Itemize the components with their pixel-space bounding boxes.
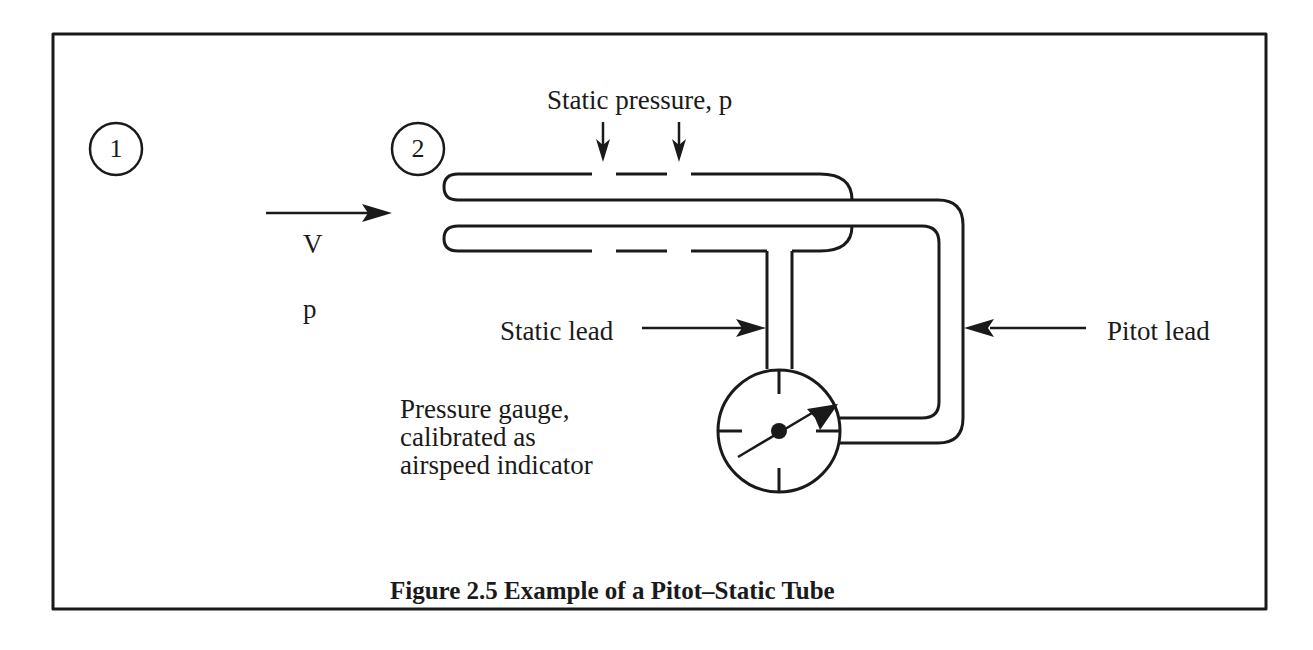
gauge-needle-arrowhead-icon [807, 404, 838, 430]
static-pressure-label: Static pressure, p [547, 87, 732, 114]
freestream-pressure-label: p [303, 296, 317, 323]
figure-caption: Figure 2.5 Example of a Pitot–Static Tub… [390, 578, 835, 603]
static-lead-label: Static lead [500, 318, 613, 345]
gauge-label: Pressure gauge, calibrated as airspeed i… [400, 395, 593, 479]
figure-frame [53, 34, 1266, 609]
pitot-lead-label: Pitot lead [1107, 318, 1210, 345]
gauge-hub [771, 423, 787, 439]
figure-canvas: 1 2 V p Static pressure, p Static lead P… [0, 0, 1313, 650]
velocity-label: V [303, 231, 323, 258]
station-2-label: 2 [398, 136, 438, 162]
station-1-label: 1 [96, 136, 136, 162]
pitot-lead-arrowhead-icon [964, 319, 994, 337]
